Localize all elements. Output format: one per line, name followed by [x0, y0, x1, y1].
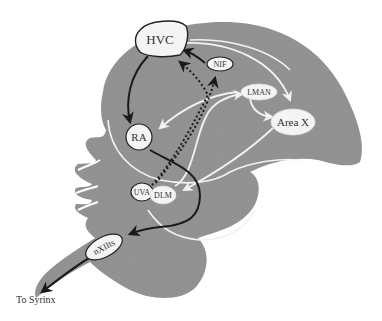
uva-label: UVA — [134, 188, 151, 197]
node-area-x[interactable]: Area X — [271, 109, 315, 135]
brain-silhouette — [35, 22, 362, 298]
node-nif[interactable]: NIF — [207, 57, 233, 71]
nif-label: NIF — [214, 60, 227, 69]
node-uva[interactable]: UVA — [131, 183, 153, 201]
node-ra[interactable]: RA — [126, 124, 152, 150]
node-lman[interactable]: LMAN — [241, 84, 277, 100]
ra-label: RA — [131, 131, 146, 143]
song-system-diagram: HVC NIF LMAN Area X RA UVA DLM nXIIts To… — [0, 0, 382, 321]
hvc-label: HVC — [146, 32, 173, 47]
node-hvc[interactable]: HVC — [136, 21, 188, 57]
to-syrinx-label: To Syrinx — [16, 294, 56, 305]
dlm-label: DLM — [154, 191, 172, 200]
area-x-label: Area X — [277, 116, 309, 128]
lman-label: LMAN — [247, 88, 271, 97]
node-dlm[interactable]: DLM — [150, 186, 176, 204]
